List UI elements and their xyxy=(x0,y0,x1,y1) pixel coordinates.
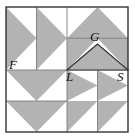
vertex-label-S: S xyxy=(117,69,124,84)
vertex-label-G: G xyxy=(90,29,100,44)
figure-canvas: FGLS xyxy=(0,0,135,139)
quilt-geometry-figure: FGLS xyxy=(0,0,135,139)
vertex-label-F: F xyxy=(8,57,18,72)
vertex-label-L: L xyxy=(65,69,73,84)
